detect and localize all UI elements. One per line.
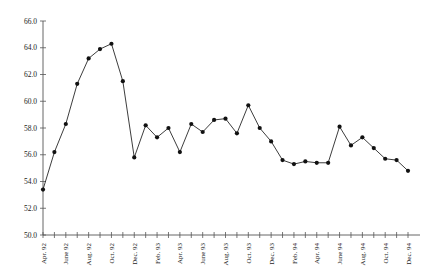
data-point-marker xyxy=(326,161,330,165)
x-axis-tick-labels: Apr. 92June 92Aug. 92Oct. 92Dec. 92Feb. … xyxy=(40,243,413,266)
data-point-marker xyxy=(132,155,136,159)
data-point-marker xyxy=(406,169,410,173)
data-point-marker xyxy=(155,135,159,139)
y-tick-label: 58.0 xyxy=(24,124,37,133)
data-point-marker xyxy=(383,157,387,161)
data-point-marker xyxy=(109,42,113,46)
x-tick-label: Apr. 92 xyxy=(40,243,48,265)
data-point-marker xyxy=(41,187,45,191)
x-tick-label: June 93 xyxy=(199,243,207,265)
data-point-marker xyxy=(315,161,319,165)
data-point-marker xyxy=(212,118,216,122)
data-point-marker xyxy=(394,158,398,162)
data-point-marker xyxy=(223,117,227,121)
data-point-marker xyxy=(201,130,205,134)
data-point-marker xyxy=(246,103,250,107)
data-point-marker xyxy=(52,150,56,154)
data-point-marker xyxy=(144,123,148,127)
data-point-marker xyxy=(87,56,91,60)
chart-figure: 50.052.054.056.058.060.062.064.066.0 Apr… xyxy=(0,0,444,274)
data-point-marker xyxy=(360,135,364,139)
x-tick-label: Oct. 94 xyxy=(382,243,390,264)
y-tick-label: 60.0 xyxy=(24,97,37,106)
data-point-marker xyxy=(280,158,284,162)
data-point-marker xyxy=(292,162,296,166)
data-point-marker xyxy=(178,150,182,154)
data-point-marker xyxy=(235,131,239,135)
y-tick-label: 54.0 xyxy=(24,177,37,186)
x-tick-label: Feb. 93 xyxy=(154,243,162,265)
data-point-markers xyxy=(41,42,410,192)
data-point-marker xyxy=(349,143,353,147)
data-point-marker xyxy=(303,159,307,163)
data-point-marker xyxy=(269,139,273,143)
y-tick-label: 56.0 xyxy=(24,150,37,159)
line-chart-svg: 50.052.054.056.058.060.062.064.066.0 Apr… xyxy=(0,0,444,274)
x-tick-label: Aug. 92 xyxy=(85,243,93,266)
data-point-marker xyxy=(98,47,102,51)
data-point-marker xyxy=(189,122,193,126)
x-tick-label: Aug. 94 xyxy=(359,243,367,266)
x-tick-label: Dec. 92 xyxy=(131,243,139,265)
x-tick-label: Dec. 94 xyxy=(405,243,413,265)
x-tick-label: Dec. 93 xyxy=(268,243,276,265)
x-tick-label: Oct. 93 xyxy=(245,243,253,264)
data-point-marker xyxy=(121,79,125,83)
y-tick-label: 52.0 xyxy=(24,204,37,213)
y-tick-label: 64.0 xyxy=(24,43,37,52)
x-tick-label: June 92 xyxy=(62,243,70,265)
data-point-marker xyxy=(258,126,262,130)
y-tick-label: 50.0 xyxy=(24,231,37,240)
data-point-marker xyxy=(75,82,79,86)
x-tick-label: Apr. 93 xyxy=(176,243,184,265)
data-point-marker xyxy=(372,146,376,150)
data-point-marker xyxy=(166,126,170,130)
x-tick-label: June 94 xyxy=(336,243,344,265)
x-tick-label: Feb. 94 xyxy=(291,243,299,265)
x-tick-label: Oct. 92 xyxy=(108,243,116,264)
x-tick-label: Aug. 93 xyxy=(222,243,230,266)
y-axis-tick-labels: 50.052.054.056.058.060.062.064.066.0 xyxy=(24,17,37,240)
data-point-marker xyxy=(64,122,68,126)
data-point-marker xyxy=(337,125,341,129)
y-tick-label: 62.0 xyxy=(24,70,37,79)
y-tick-label: 66.0 xyxy=(24,17,37,26)
x-tick-label: Apr. 94 xyxy=(313,243,321,265)
